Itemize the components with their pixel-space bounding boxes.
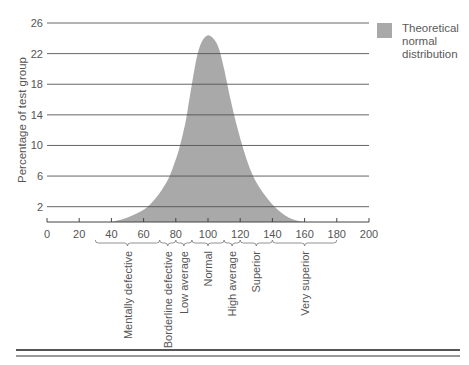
legend-label: Theoretical normal distribution xyxy=(402,22,469,61)
classification-brace xyxy=(272,240,336,246)
y-tick-label: 18 xyxy=(31,78,43,90)
classification-brace xyxy=(240,240,272,246)
classification-label: Borderline defective xyxy=(162,251,174,348)
distribution-area xyxy=(111,35,304,222)
y-tick-label: 14 xyxy=(31,109,43,121)
x-tick-label: 20 xyxy=(73,228,85,240)
classification-label: Superior xyxy=(250,251,262,293)
y-tick-label: 6 xyxy=(37,170,43,182)
classification-label: High average xyxy=(226,251,238,316)
classification-label: Mentally defective xyxy=(122,251,134,339)
y-axis-label: Percentage of test group xyxy=(16,57,28,183)
classification-brace xyxy=(160,240,176,246)
x-tick-label: 140 xyxy=(263,228,281,240)
classification-label: Very superior xyxy=(299,251,311,316)
legend: Theoretical normal distribution xyxy=(377,22,469,61)
x-tick-label: 200 xyxy=(360,228,378,240)
legend-swatch xyxy=(377,23,392,38)
y-tick-label: 10 xyxy=(31,139,43,151)
classification-label: Normal xyxy=(202,251,214,286)
x-tick-label: 120 xyxy=(231,228,249,240)
y-tick-label: 22 xyxy=(31,48,43,60)
x-tick-label: 180 xyxy=(328,228,346,240)
x-tick-label: 80 xyxy=(170,228,182,240)
classification-brace xyxy=(192,240,224,246)
x-tick-label: 60 xyxy=(137,228,149,240)
y-tick-label: 26 xyxy=(31,17,43,29)
x-tick-label: 40 xyxy=(105,228,117,240)
classification-label: Low average xyxy=(178,251,190,314)
x-tick-label: 100 xyxy=(199,228,217,240)
y-tick-label: 2 xyxy=(37,201,43,213)
classification-brace xyxy=(95,240,159,246)
classification-brace xyxy=(176,240,192,246)
x-tick-label: 160 xyxy=(295,228,313,240)
classification-brace xyxy=(224,240,240,246)
x-tick-label: 0 xyxy=(44,228,50,240)
